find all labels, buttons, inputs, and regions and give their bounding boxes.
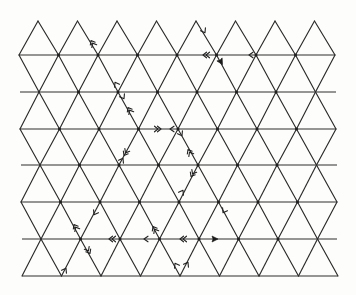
lattice-edge — [119, 165, 140, 202]
lattice-edge — [179, 165, 198, 202]
lattice-edge — [198, 129, 218, 165]
lattice-edge — [258, 202, 278, 239]
lattice-vertex — [157, 164, 160, 167]
double-arrowhead-icon — [151, 225, 159, 233]
lattice-edge — [278, 202, 298, 239]
lattice-vertex — [257, 201, 260, 204]
lattice-vertex — [178, 201, 181, 204]
lattice-edge — [140, 202, 160, 239]
lattice-edge — [80, 129, 100, 165]
lattice-edge — [19, 55, 39, 92]
lattice-vertex — [277, 238, 280, 241]
lattice-edge — [118, 55, 138, 92]
lattice-edge — [158, 92, 179, 129]
lattice-vertex — [215, 54, 218, 57]
lattice-edge — [315, 21, 336, 55]
lattice-edge — [20, 129, 40, 165]
lattice-edge — [317, 129, 337, 165]
lattice-vertex — [296, 201, 299, 204]
lattice-edge — [297, 92, 316, 129]
lattice-edge — [20, 92, 39, 129]
lattice-diagonal-edges — [19, 21, 338, 276]
lattice-edge — [99, 129, 119, 165]
lattice-vertex — [294, 54, 297, 57]
lattice-edge — [21, 165, 40, 202]
lattice-vertex — [58, 128, 61, 131]
lattice-edge — [277, 165, 298, 202]
lattice-edge — [81, 239, 102, 276]
lattice-edge — [138, 21, 157, 55]
lattice-edge — [79, 55, 99, 92]
lattice-vertex — [77, 91, 80, 94]
lattice-edge — [199, 202, 219, 239]
lattice-edge — [256, 55, 276, 92]
lattice-edge — [60, 129, 80, 165]
lattice-edge — [316, 92, 337, 129]
lattice-edge — [61, 165, 80, 202]
lattice-edge — [318, 239, 339, 276]
lattice-edge — [99, 92, 118, 129]
lattice-edge — [296, 55, 316, 92]
lattice-vertex — [99, 201, 102, 204]
lattice-edge — [38, 21, 59, 55]
lattice-vertex — [97, 54, 100, 57]
lattice-edge — [316, 55, 336, 92]
lattice-edge — [218, 92, 237, 129]
lattice-edge — [40, 129, 60, 165]
lattice-vertex — [256, 128, 259, 131]
lattice-vertex — [237, 238, 240, 241]
lattice-vertex — [78, 164, 81, 167]
lattice-vertex — [138, 201, 141, 204]
lattice-edge — [19, 21, 38, 55]
lattice-edge — [220, 239, 239, 276]
lattice-edge — [238, 165, 259, 202]
lattice-edge — [276, 92, 297, 129]
lattice-edge — [180, 239, 199, 276]
lattice-edge — [21, 202, 41, 239]
lattice-vertex — [137, 128, 140, 131]
lattice-edge — [196, 21, 217, 55]
lattice-vertex — [197, 164, 200, 167]
lattice-edge — [258, 165, 277, 202]
lattice-edge — [79, 92, 100, 129]
arrowhead-stroke — [120, 94, 127, 100]
triangular-lattice-diagram — [0, 0, 356, 295]
lattice-edge — [120, 202, 140, 239]
lattice-edge — [98, 21, 117, 55]
lattice-edge — [179, 202, 199, 239]
lattice-edge — [275, 21, 296, 55]
lattice-edge — [178, 129, 198, 165]
lattice-vertex — [236, 164, 239, 167]
lattice-edge — [298, 202, 318, 239]
lattice-vertex — [198, 238, 201, 241]
lattice-edge — [276, 55, 296, 92]
lattice-edge — [317, 165, 338, 202]
lattice-vertex — [118, 164, 121, 167]
lattice-edge — [139, 129, 159, 165]
lattice-edge — [78, 21, 99, 55]
lattice-vertex — [79, 238, 82, 241]
lattice-vertex — [216, 128, 219, 131]
lattice-vertex — [177, 128, 180, 131]
lattice-edge — [318, 202, 338, 239]
lattice-vertex — [276, 164, 279, 167]
lattice-edge — [236, 21, 257, 55]
lattice-edge — [159, 165, 180, 202]
lattice-edge — [297, 129, 317, 165]
lattice-edge — [277, 129, 297, 165]
lattice-edge — [237, 55, 257, 92]
lattice-edge — [217, 21, 236, 55]
lattice-edge — [197, 92, 218, 129]
double-arrowhead-icon — [122, 148, 130, 156]
lattice-edge — [159, 129, 179, 165]
lattice-edge — [160, 202, 180, 239]
lattice-edge — [62, 239, 81, 276]
lattice-edge — [237, 92, 258, 129]
lattice-edge — [100, 165, 119, 202]
lattice-vertex — [156, 91, 159, 94]
lattice-edge — [41, 202, 61, 239]
lattice-edge — [197, 55, 217, 92]
lattice-vertex — [217, 201, 220, 204]
lattice-edge — [238, 129, 258, 165]
lattice-edge — [278, 239, 299, 276]
